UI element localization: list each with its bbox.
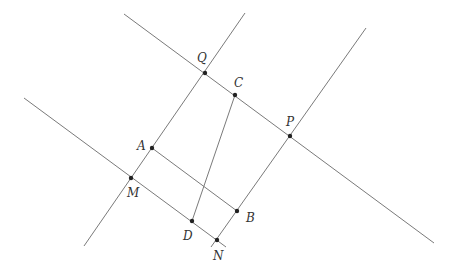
point-A [150, 146, 154, 150]
line-MN [24, 98, 226, 247]
point-label-Q: Q [197, 51, 207, 65]
geometry-diagram: QCPAMBDN [0, 0, 455, 272]
point-N [215, 238, 219, 242]
point-label-B: B [245, 211, 255, 225]
point-label-D: D [182, 229, 193, 243]
point-C [233, 93, 237, 97]
point-label-C: C [234, 76, 243, 90]
points-group [129, 71, 292, 242]
point-label-M: M [126, 186, 140, 200]
line-MQ [84, 13, 245, 246]
point-M [129, 176, 133, 180]
line-QP [124, 14, 434, 243]
point-Q [203, 71, 207, 75]
segment-CD [192, 95, 235, 221]
point-label-P: P [285, 115, 295, 129]
point-B [235, 209, 239, 213]
point-label-N: N [212, 249, 224, 263]
point-D [190, 219, 194, 223]
lines-group [24, 13, 434, 247]
labels-group: QCPAMBDN [126, 51, 295, 263]
point-P [288, 134, 292, 138]
point-label-A: A [136, 139, 146, 153]
